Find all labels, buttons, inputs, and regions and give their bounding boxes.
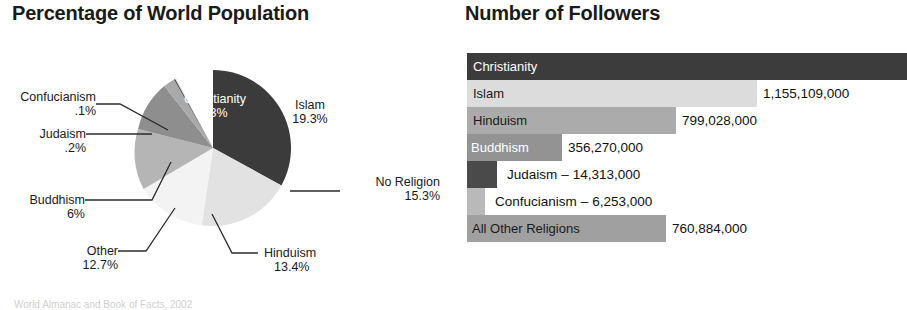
- number-of-followers-panel: Number of Followers Christianity Islam 1…: [445, 0, 890, 310]
- pie-label-buddhism: Buddhism 6%: [0, 193, 85, 221]
- bar-label-judaism: Judaism: [507, 167, 557, 182]
- bar-confucianism-number: 6,253,000: [592, 194, 652, 209]
- pie-label-other-value: 12.7%: [20, 258, 118, 272]
- pie-label-christianity: Christianity 33%: [160, 92, 270, 120]
- pie-label-islam-name: Islam: [295, 98, 325, 112]
- pie-label-no-religion-name: No Religion: [375, 175, 440, 189]
- bar-label-islam: Islam: [473, 80, 504, 107]
- bar-label-hinduism: Hinduism: [473, 107, 527, 134]
- pie-label-other-name: Other: [87, 244, 118, 258]
- bar-islam: [467, 80, 757, 107]
- pie-label-hinduism-value: 13.4%: [264, 260, 384, 274]
- pie-label-hinduism-name: Hinduism: [264, 246, 316, 260]
- pie-label-judaism-name: Judaism: [39, 127, 86, 141]
- pie-label-islam: Islam 19.3%: [270, 98, 350, 126]
- bar-judaism-dash: –: [557, 167, 573, 182]
- bar-confucianism-dash: –: [577, 194, 593, 209]
- bar-value-islam: 1,155,109,000: [763, 80, 849, 107]
- pie-label-other: Other 12.7%: [20, 244, 118, 272]
- pie-label-hinduism: Hinduism 13.4%: [264, 246, 384, 274]
- bar-confucianism: [467, 188, 485, 215]
- percentage-of-world-population-panel: Percentage of World Population: [0, 0, 445, 310]
- bar-judaism: [467, 161, 497, 188]
- bar-value-buddhism: 356,270,000: [568, 134, 643, 161]
- leader-other: [118, 208, 175, 251]
- page-title-bar: Number of Followers: [465, 2, 660, 25]
- pie-label-no-religion: No Religion 15.3%: [240, 175, 440, 203]
- pie-label-buddhism-name: Buddhism: [29, 193, 85, 207]
- pie-label-confucianism-value: .1%: [0, 104, 96, 118]
- pie-label-buddhism-value: 6%: [0, 207, 85, 221]
- pie-label-christianity-name: Christianity: [184, 92, 246, 106]
- bar-label-all-other-religions: All Other Religions: [472, 215, 580, 242]
- bar-value-confucianism: Confucianism–6,253,000: [495, 188, 652, 215]
- pie-label-confucianism: Confucianism .1%: [0, 90, 96, 118]
- bar-value-judaism: Judaism–14,313,000: [507, 161, 640, 188]
- pie-label-no-religion-value: 15.3%: [240, 189, 440, 203]
- bar-value-all-other-religions: 760,884,000: [672, 215, 747, 242]
- bar-label-christianity: Christianity: [473, 53, 537, 80]
- bar-judaism-number: 14,313,000: [573, 167, 641, 182]
- pie-label-confucianism-name: Confucianism: [20, 90, 96, 104]
- bar-label-confucianism: Confucianism: [495, 194, 577, 209]
- source-footnote: World Almanac and Book of Facts, 2002: [14, 299, 274, 310]
- bar-label-buddhism: Buddhism: [471, 134, 529, 161]
- bar-value-hinduism: 799,028,000: [682, 107, 757, 134]
- pie-label-christianity-value: 33%: [160, 106, 270, 120]
- pie-label-judaism: Judaism .2%: [0, 127, 86, 155]
- pie-label-judaism-value: .2%: [0, 141, 86, 155]
- pie-label-islam-value: 19.3%: [270, 112, 350, 126]
